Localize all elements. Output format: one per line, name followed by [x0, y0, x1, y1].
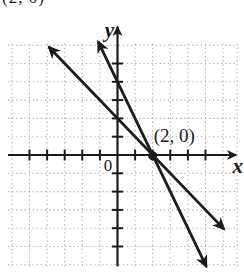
intersection-point-label: (2, 0): [154, 125, 195, 147]
y-axis-label: y: [102, 18, 115, 42]
coordinate-plane-graph: (2, 0)xy0: [0, 0, 244, 274]
graph-line-slope-minus-1: [49, 47, 224, 229]
figure-canvas: (2, 0) (2, 0)xy0: [0, 0, 244, 274]
intersection-point: [148, 151, 157, 160]
origin-label: 0: [104, 156, 113, 175]
x-axis-label: x: [232, 154, 244, 178]
